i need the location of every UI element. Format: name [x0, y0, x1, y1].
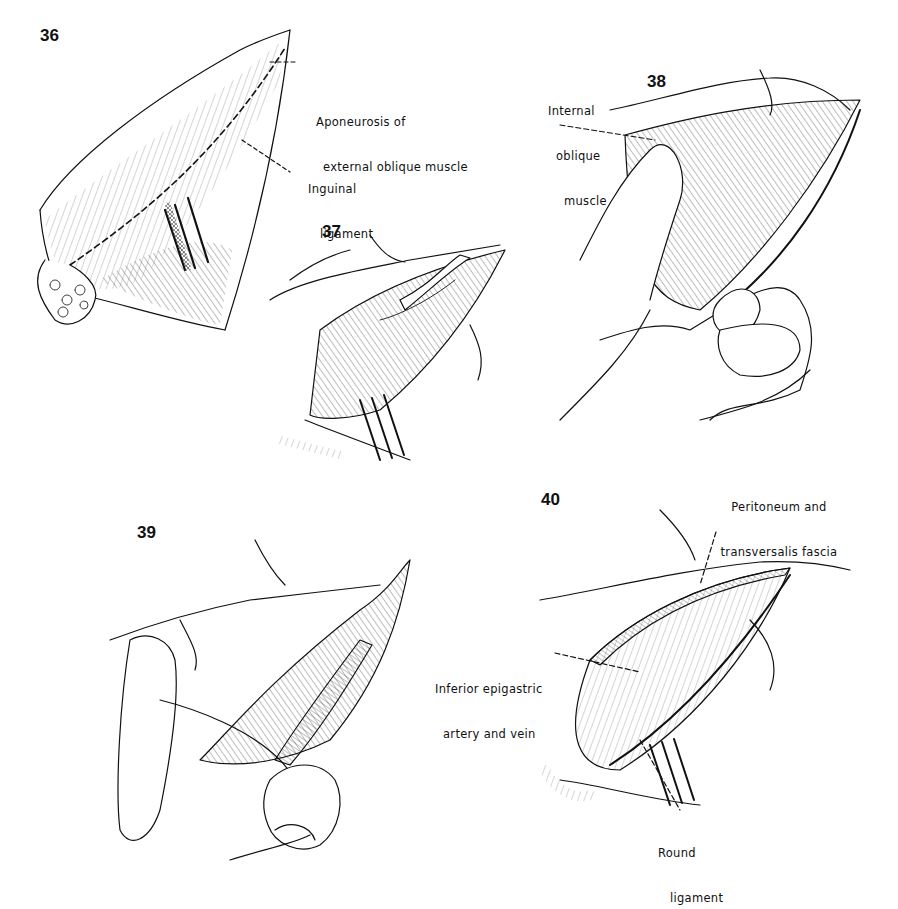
figure-number-38: 38	[647, 72, 666, 92]
figure-number-39: 39	[137, 523, 156, 543]
figure-37-drawing	[270, 235, 505, 460]
label-internal-oblique-muscle: Internal oblique muscle	[548, 74, 603, 224]
label-inguinal-ligament: Inguinal ligament	[308, 152, 373, 257]
label-round-ligament: Round ligament	[658, 816, 723, 909]
figure-36-drawing	[38, 30, 297, 330]
figure-38-drawing	[560, 70, 860, 420]
figure-number-40: 40	[541, 490, 560, 510]
figure-39-drawing	[110, 540, 410, 860]
figure-number-36: 36	[40, 26, 59, 46]
label-inferior-epigastric-artery-vein: Inferior epigastric artery and vein	[435, 652, 543, 757]
label-peritoneum-transversalis-fascia: Peritoneum and transversalis fascia	[684, 470, 874, 575]
